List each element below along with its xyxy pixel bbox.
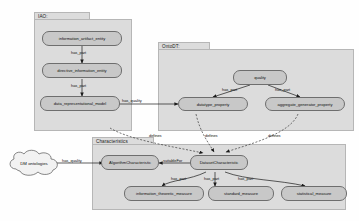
node-datatype-property[interactable]: datatype_property xyxy=(178,97,248,111)
edge-label-has-part-7: has_part xyxy=(238,176,253,181)
node-information-artifact-entity[interactable]: information_artifact_entity xyxy=(42,31,122,46)
edge-label-defines-1: defines xyxy=(149,133,162,138)
node-statistical-measure[interactable]: statistical_measure xyxy=(281,186,347,201)
edge-label-has-part-5: has_part xyxy=(171,176,186,181)
edge-label-has-part-1: has_part xyxy=(71,50,86,55)
edge-label-has-part-2: has_part xyxy=(71,83,86,88)
edge-label-defines-3: defines xyxy=(268,133,281,138)
node-aggregate-generator-property[interactable]: aggregate_generator_property xyxy=(265,97,345,111)
node-standard-measure[interactable]: standard_measure xyxy=(208,186,274,201)
node-quality[interactable]: quality xyxy=(233,70,287,85)
group-box-ontodt xyxy=(158,49,354,131)
edge-label-has-quality-top: has_quality xyxy=(122,98,142,103)
cloud-dm-ontologies[interactable]: DM ontologies xyxy=(6,149,62,177)
edge-label-has-part-3: has_part xyxy=(222,87,237,92)
node-data-representational-model[interactable]: data_representational_model xyxy=(40,96,120,111)
node-dataset-characteristic[interactable]: DatasetCharacteristic xyxy=(190,155,248,170)
node-directive-information-entity[interactable]: directive_information_entity xyxy=(42,63,122,78)
edge-label-suitable-for: suitableFor xyxy=(163,158,182,163)
edge-label-defines-2: defines xyxy=(205,133,218,138)
node-information-theoretic-measure[interactable]: information_theoretic_measure xyxy=(124,186,204,201)
edge-label-has-part-4: has_part xyxy=(275,87,290,92)
node-algorithm-characteristic[interactable]: AlgorithmCharacteristic xyxy=(101,155,159,170)
edge-label-has-quality-bottom: has_quality xyxy=(62,158,82,163)
cloud-label: DM ontologies xyxy=(20,161,47,166)
edge-label-has-part-6: has_part xyxy=(204,176,219,181)
diagram-canvas: IAO: OntoDT: Characteristics xyxy=(0,0,359,221)
